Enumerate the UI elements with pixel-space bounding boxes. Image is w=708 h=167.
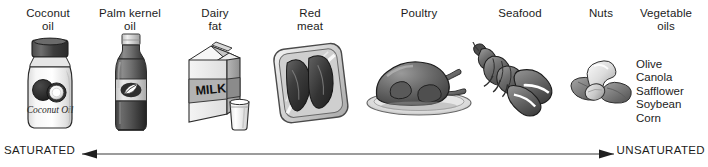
vegetable-oil-item: Safflower xyxy=(636,85,684,98)
jar-label-text: Coconut Oil xyxy=(27,105,74,115)
column-header-dairy-fat: Dairy fat xyxy=(178,7,252,33)
column-header-palm-kernel-oil: Palm kernel oil xyxy=(85,7,175,33)
vegetable-oil-item: Olive xyxy=(636,58,684,71)
scale-label-unsaturated: UNSATURATED xyxy=(617,143,705,157)
column-header-poultry: Poultry xyxy=(377,7,461,20)
milk-carton-icon: MILK xyxy=(183,38,259,132)
arrow-head-left xyxy=(82,150,97,159)
red-meat-tray-icon xyxy=(272,38,352,130)
vegetable-oil-item: Corn xyxy=(636,112,684,125)
column-header-seafood: Seafood xyxy=(478,7,562,20)
nuts-icon xyxy=(566,58,638,122)
column-header-coconut-oil: Coconut oil xyxy=(8,7,88,33)
column-header-red-meat: Red meat xyxy=(272,7,348,33)
vegetable-oil-item: Canola xyxy=(636,71,684,84)
scale-arrow-line xyxy=(0,143,708,165)
coconut-oil-jar-icon: Coconut Oil xyxy=(18,36,84,134)
vegetable-oil-item: Soybean xyxy=(636,98,684,111)
column-header-nuts: Nuts xyxy=(570,7,632,20)
roast-poultry-icon xyxy=(363,56,475,118)
arrow-head-right xyxy=(599,150,614,159)
saturation-scale: SATURATED UNSATURATED xyxy=(0,143,708,165)
column-header-vegetable-oils: Vegetable oils xyxy=(628,7,704,33)
saturated-unsaturated-fat-diagram: Coconut oil Palm kernel oil Dairy fat Re… xyxy=(0,0,708,167)
vegetable-oils-list: Olive Canola Safflower Soybean Corn xyxy=(636,58,684,125)
palm-kernel-oil-bottle-icon xyxy=(105,31,157,135)
milk-carton-label: MILK xyxy=(195,81,227,98)
lobster-icon xyxy=(464,42,570,124)
